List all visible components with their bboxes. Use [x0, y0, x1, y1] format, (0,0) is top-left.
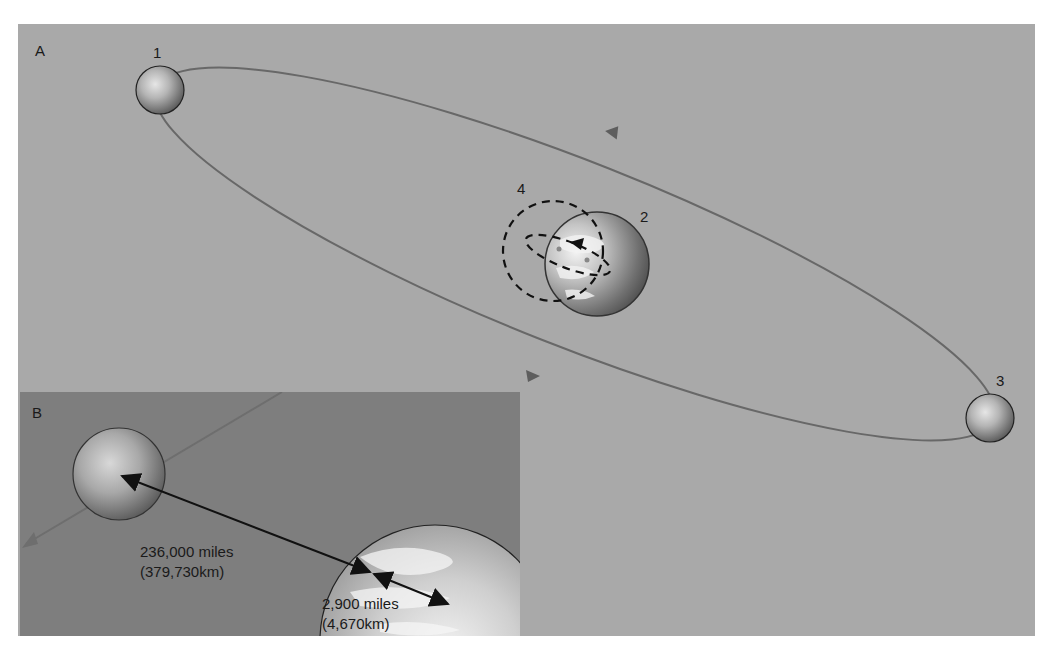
panel-b-inset: B 236,000 miles (379,730km) 2,900 miles …	[20, 392, 520, 636]
moon-distance-label: 236,000 miles (379,730km)	[140, 542, 233, 582]
panel-a-label: A	[35, 42, 45, 59]
barycenter-distance-label: 2,900 miles (4,670km)	[322, 594, 399, 634]
panel-b-label: B	[32, 404, 42, 421]
moon-position-3	[966, 394, 1014, 442]
position-1-label: 1	[153, 44, 161, 61]
moon-position-1	[136, 66, 184, 114]
orbit-arrow-icon	[526, 370, 540, 382]
inset-diagram	[20, 392, 520, 636]
position-3-label: 3	[996, 372, 1004, 389]
position-4-label: 4	[517, 180, 525, 197]
inset-moon	[73, 428, 165, 520]
orbit-arrow-icon	[605, 126, 622, 142]
position-2-label: 2	[640, 208, 648, 225]
